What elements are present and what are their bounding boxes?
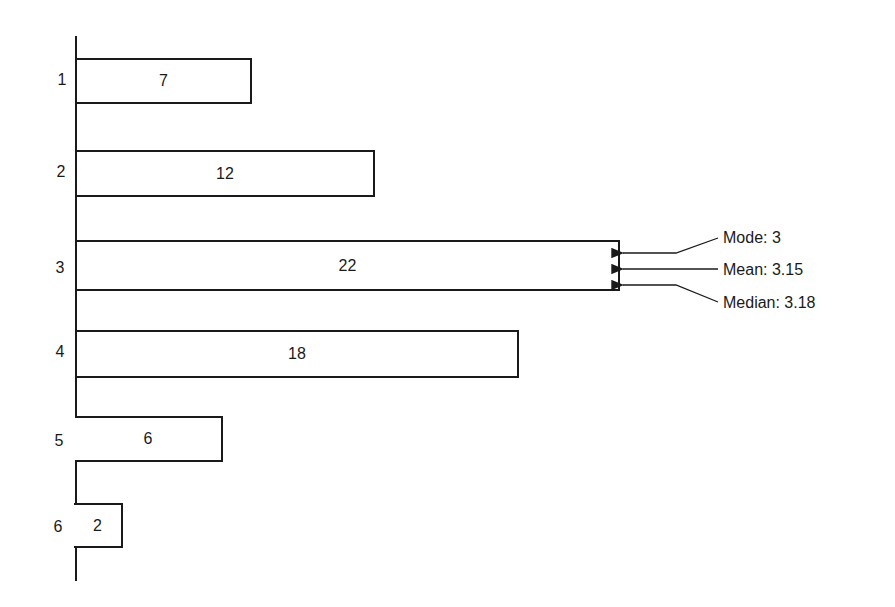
- median-annotation: Median: 3.18: [723, 294, 816, 312]
- mode-annotation: Mode: 3: [723, 229, 781, 247]
- mode-arrow-icon: [623, 238, 718, 253]
- mean-annotation: Mean: 3.15: [723, 261, 803, 279]
- horizontal-bar-chart: 1 7 2 12 3 22 4 18 5 6 6 2 Mode: 3 Mean:…: [0, 0, 895, 607]
- median-arrow-icon: [623, 285, 718, 302]
